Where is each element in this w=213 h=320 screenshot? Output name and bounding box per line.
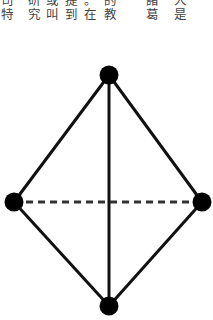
tetrahedron-diagram	[0, 0, 213, 320]
solid-edge	[109, 75, 202, 202]
vertex-left	[5, 193, 24, 212]
vertex-top	[100, 66, 119, 85]
solid-edge	[109, 202, 202, 306]
vertex-bottom	[100, 297, 119, 316]
solid-edge	[14, 202, 109, 306]
solid-edge	[14, 75, 109, 202]
vertex-right	[193, 193, 212, 212]
